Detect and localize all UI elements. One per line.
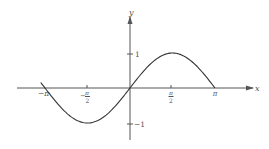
sine-plot: x y −π − π 2 π 2 π 1 −1 — [0, 0, 269, 149]
tick-label-pi: π — [212, 90, 218, 98]
tick-label-one: 1 — [135, 50, 140, 59]
tick-label-neg-half-pi: − π 2 — [80, 89, 90, 104]
x-axis-label: x — [255, 84, 260, 93]
tick-label-half-pi: π 2 — [168, 89, 174, 104]
frac-num: π — [84, 89, 90, 96]
frac-den: 2 — [169, 97, 173, 104]
frac-den: 2 — [86, 97, 90, 104]
tick-label-neg-pi: −π — [38, 89, 50, 98]
tick-label-neg-one: −1 — [134, 120, 145, 129]
frac-num: π — [168, 89, 174, 96]
y-axis-label: y — [128, 8, 134, 17]
